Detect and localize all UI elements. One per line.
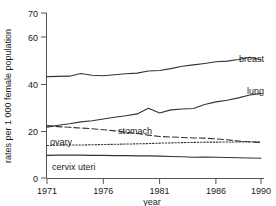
series-line-lung (47, 94, 261, 127)
y-tick-label-70: 70 (28, 9, 38, 19)
y-tick-label-40: 40 (28, 80, 38, 90)
series-label-ovary: ovary (50, 137, 73, 147)
series-lines-group (47, 57, 261, 158)
y-axis-title: rates per 1 000 female population (3, 29, 13, 163)
series-label-breast: breast (239, 54, 265, 64)
series-label-stomach: stomach (118, 126, 152, 136)
y-tick-label-20: 20 (28, 127, 38, 137)
series-line-ovary (47, 142, 261, 146)
x-axis-title: year (143, 197, 161, 206)
series-line-stomach (47, 126, 261, 143)
series-line-cervix-uteri (47, 155, 261, 158)
series-line-breast (47, 57, 261, 76)
x-tick-label-1990: 1990 (251, 186, 271, 196)
y-tick-label-60: 60 (28, 33, 38, 43)
y-tick-label-0: 0 (33, 174, 38, 184)
chart-plot-area: 70 60 40 20 0 1971 1976 1981 1986 1990 y… (0, 0, 276, 206)
series-label-cervix-uteri: cervix uteri (52, 162, 96, 172)
line-chart-figure: 70 60 40 20 0 1971 1976 1981 1986 1990 y… (0, 0, 276, 206)
x-tick-label-1976: 1976 (93, 186, 113, 196)
series-label-lung: lung (247, 86, 264, 96)
x-tick-label-1986: 1986 (206, 186, 226, 196)
x-tick-label-1971: 1971 (37, 186, 57, 196)
x-tick-label-1981: 1981 (150, 186, 170, 196)
series-labels-group: breastlungstomachovarycervix uteri (50, 54, 265, 172)
